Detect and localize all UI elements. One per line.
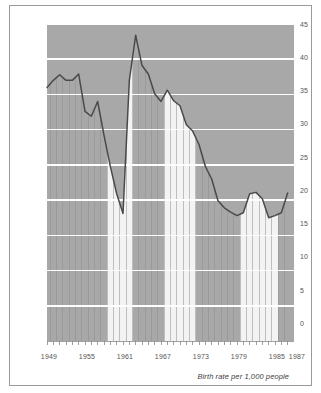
birth-rate-figure: 45 40 35 30 25 20 15 10 5 0 1949 1955 19… <box>0 0 321 393</box>
y-tick-10: 10 <box>300 253 308 260</box>
y-tick-15: 15 <box>300 220 308 227</box>
y-tick-20: 20 <box>300 187 308 194</box>
x-tick-marks <box>47 341 294 345</box>
x-tick-1987: 1987 <box>289 353 305 360</box>
y-tick-40: 40 <box>300 54 308 61</box>
y-tick-0: 0 <box>300 320 304 327</box>
y-tick-5: 5 <box>300 287 304 294</box>
y-tick-25: 25 <box>300 154 308 161</box>
chart-caption: Birth rate per 1,000 people <box>197 372 289 381</box>
x-tick-1961: 1961 <box>117 353 133 360</box>
x-tick-1955: 1955 <box>79 353 95 360</box>
x-tick-1985: 1985 <box>269 353 285 360</box>
line-chart-svg <box>47 24 294 341</box>
x-tick-1973: 1973 <box>193 353 209 360</box>
y-tick-45: 45 <box>300 21 308 28</box>
y-tick-35: 35 <box>300 87 308 94</box>
x-tick-1967: 1967 <box>155 353 171 360</box>
x-tick-1949: 1949 <box>41 353 57 360</box>
chart-plot-area <box>47 24 294 341</box>
y-tick-30: 30 <box>300 120 308 127</box>
x-tick-1979: 1979 <box>231 353 247 360</box>
figure-frame: 45 40 35 30 25 20 15 10 5 0 1949 1955 19… <box>9 5 312 386</box>
